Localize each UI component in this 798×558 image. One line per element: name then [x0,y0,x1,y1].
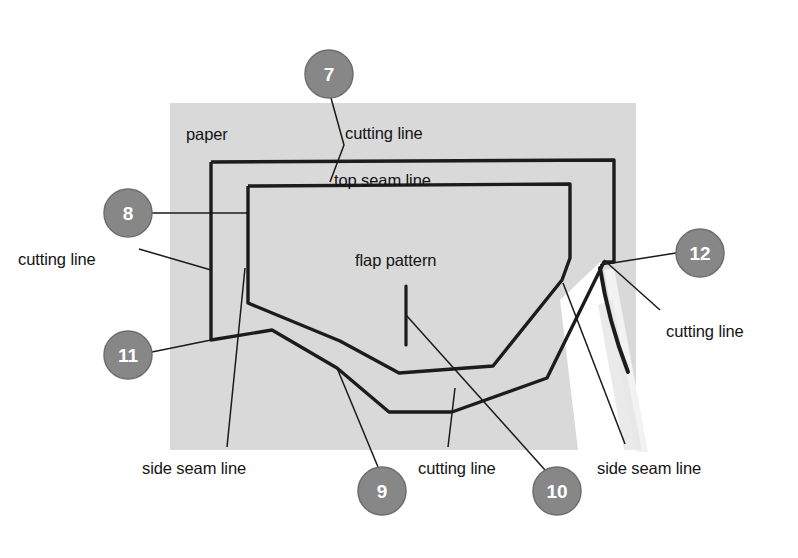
label-cutting-line-right: cutting line [666,322,744,341]
label-cutting-line-top: cutting line [345,124,423,143]
callout-label: 10 [546,481,567,502]
callout-12[interactable]: 12 [676,229,724,277]
callout-label: 9 [377,481,388,502]
label-cutting-line-left: cutting line [18,250,96,269]
label-paper: paper [186,125,228,144]
label-top-seam-line: top seam line [334,171,431,190]
paper-sheet-group [170,103,648,452]
callout-label: 8 [123,203,134,224]
label-cutting-line-bottom: cutting line [418,459,496,478]
callout-9[interactable]: 9 [358,467,406,515]
diagram-canvas: 7 8 11 12 9 10 paper c [0,0,798,558]
label-side-seam-line-left: side seam line [142,459,246,478]
callout-8[interactable]: 8 [104,189,152,237]
callout-10[interactable]: 10 [533,467,581,515]
callout-label: 12 [689,243,710,264]
callout-11[interactable]: 11 [104,331,152,379]
label-flap-pattern: flap pattern [355,251,436,270]
paper-sheet [170,103,636,450]
callout-label: 7 [324,64,335,85]
callout-7[interactable]: 7 [305,50,353,98]
callout-label: 11 [118,345,139,366]
label-side-seam-line-right: side seam line [597,459,701,478]
